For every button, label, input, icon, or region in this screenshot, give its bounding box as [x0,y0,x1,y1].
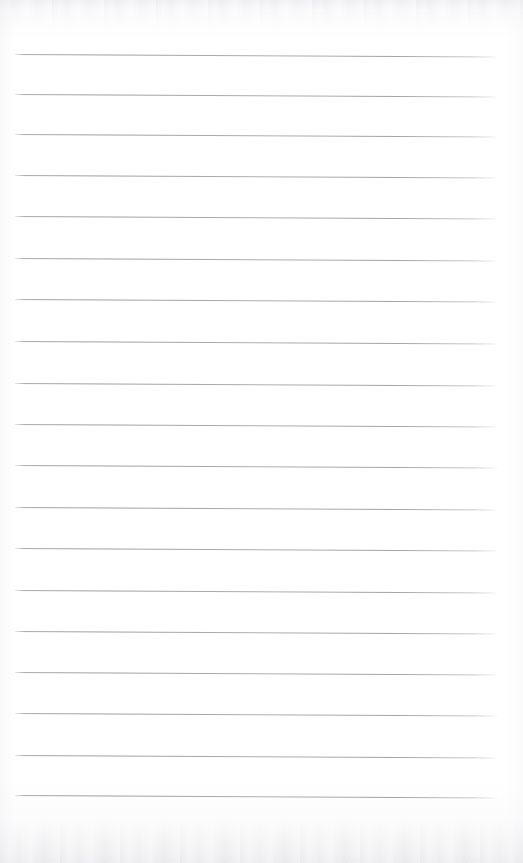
rule-line [15,672,497,676]
rule-line [15,299,497,303]
rule-line [15,755,497,759]
scanned-page [0,0,523,863]
rule-line [15,548,497,552]
rule-line [15,795,497,799]
rule-line [15,216,497,220]
rule-line [15,175,497,179]
rule-line [15,713,497,717]
rule-line [15,424,497,428]
rule-line [15,590,497,594]
rule-line [15,507,497,511]
rule-line [15,258,497,262]
rule-line [15,383,497,387]
rule-line [15,134,497,138]
rule-line [15,94,497,98]
rule-line [15,631,497,635]
rule-line [15,341,497,345]
rule-line [15,54,497,58]
rule-line [15,465,497,469]
ruled-lines-layer [0,0,523,863]
